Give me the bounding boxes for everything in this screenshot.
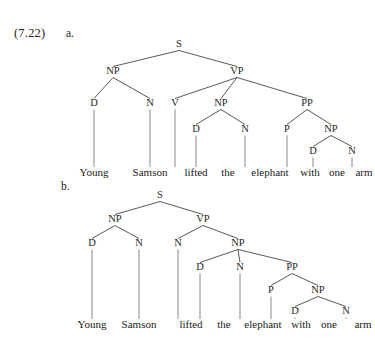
tree-node-label: D: [291, 305, 299, 316]
tree-node-label: P: [284, 123, 290, 134]
tree-node-label: PP: [301, 97, 313, 108]
tree-branch: [237, 78, 307, 99]
tree-node-label: NP: [108, 213, 122, 224]
tree-branch: [113, 78, 150, 99]
tree-diagram-b: SNPVPDNNNPDNPPPNPDNYoungSamsonliftedthee…: [0, 182, 375, 338]
tree-node-label: N: [241, 123, 249, 134]
tree-node-label: NP: [231, 237, 245, 248]
tree-leaf-word: arm: [355, 166, 373, 178]
tree-node-label: N: [348, 145, 356, 156]
tree-node-label: S: [176, 38, 182, 49]
tree-branch: [287, 110, 307, 125]
tree-leaf-word: Samson: [133, 166, 168, 178]
tree-leaf-word: lifted: [179, 318, 203, 330]
tree-node-label: NP: [214, 97, 228, 108]
tree-node-label: N: [174, 237, 182, 248]
tree-node-label: D: [309, 145, 317, 156]
tree-node-label: NP: [106, 65, 120, 76]
tree-node-label: D: [192, 123, 200, 134]
tree-leaf-word: the: [221, 166, 235, 178]
tree-node-label: D: [90, 97, 98, 108]
tree-leaf-word: Samson: [122, 318, 157, 330]
tree-node-label: S: [157, 189, 163, 200]
tree-node-label: P: [268, 284, 274, 295]
tree-branch: [113, 51, 179, 67]
tree-node-label: VP: [196, 213, 210, 224]
tree-node-label: VP: [230, 65, 244, 76]
tree-b-canvas: SNPVPDNNNPDNPPPNPDNYoungSamsonliftedthee…: [0, 182, 375, 338]
tree-leaf-word: one: [329, 166, 345, 178]
tree-node-label: NP: [324, 123, 338, 134]
tree-leaf-word: Young: [80, 166, 109, 178]
tree-leaf-word: the: [217, 318, 231, 330]
tree-diagram-a: SNPVPDNVNPPPDNPNPDNYoungSamsonliftedthee…: [0, 18, 375, 170]
tree-leaf-word: arm: [354, 318, 372, 330]
tree-leaf-word: Young: [78, 318, 107, 330]
tree-branch: [94, 78, 113, 99]
tree-branch: [238, 250, 292, 263]
tree-a-canvas: SNPVPDNVNPPPDNPNPDNYoungSamsonliftedthee…: [0, 18, 375, 188]
tree-branch: [175, 78, 237, 99]
tree-branch: [200, 250, 238, 263]
tree-leaf-word: one: [321, 318, 337, 330]
tree-node-label: N: [342, 305, 350, 316]
tree-leaf-word: with: [291, 318, 311, 330]
tree-leaf-word: elephant: [251, 166, 288, 178]
tree-node-label: PP: [286, 261, 298, 272]
tree-branch: [115, 202, 160, 215]
tree-node-label: N: [146, 97, 154, 108]
tree-branch: [179, 51, 237, 67]
tree-node-label: D: [88, 237, 96, 248]
tree-leaf-word: lifted: [184, 166, 208, 178]
tree-node-label: NP: [311, 284, 325, 295]
tree-leaf-word: with: [300, 166, 320, 178]
tree-node-label: N: [236, 261, 244, 272]
tree-node-label: V: [171, 97, 179, 108]
tree-node-label: N: [135, 237, 143, 248]
tree-branch: [271, 274, 292, 286]
syntax-tree-figure: (7.22) a. b. SNPVPDNVNPPPDNPNPDNYoungSam…: [0, 0, 375, 338]
tree-node-label: D: [196, 261, 204, 272]
tree-leaf-word: elephant: [244, 318, 281, 330]
